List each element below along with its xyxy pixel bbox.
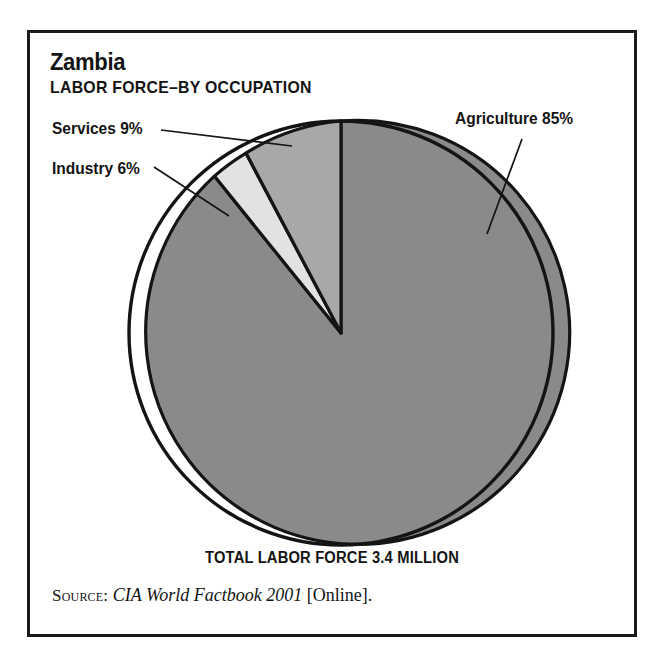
source-suffix: [Online]. xyxy=(302,585,372,605)
figure-frame: Zambia LABOR FORCE–BY OCCUPATION Service… xyxy=(27,30,637,637)
source-title: CIA World Factbook 2001 xyxy=(113,585,303,605)
total-labor-force-caption: TOTAL LABOR FORCE 3.4 MILLION xyxy=(30,549,634,567)
pie-label-industry: Industry 6% xyxy=(52,159,140,178)
pie-label-services: Services 9% xyxy=(52,119,143,138)
total-labor-force-text: TOTAL LABOR FORCE 3.4 MILLION xyxy=(205,549,459,567)
source-label: Source: xyxy=(52,586,108,605)
pie-label-agriculture: Agriculture 85% xyxy=(455,109,573,128)
source-line: Source: CIA World Factbook 2001 [Online]… xyxy=(52,585,372,606)
